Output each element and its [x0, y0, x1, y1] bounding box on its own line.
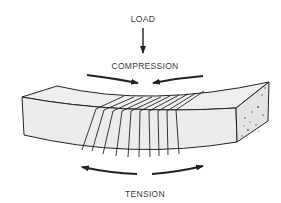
beam-diagram	[0, 0, 281, 203]
tension-arrows-icon	[82, 166, 203, 174]
compression-arrows-icon	[87, 75, 203, 83]
beam-icon	[22, 82, 269, 157]
